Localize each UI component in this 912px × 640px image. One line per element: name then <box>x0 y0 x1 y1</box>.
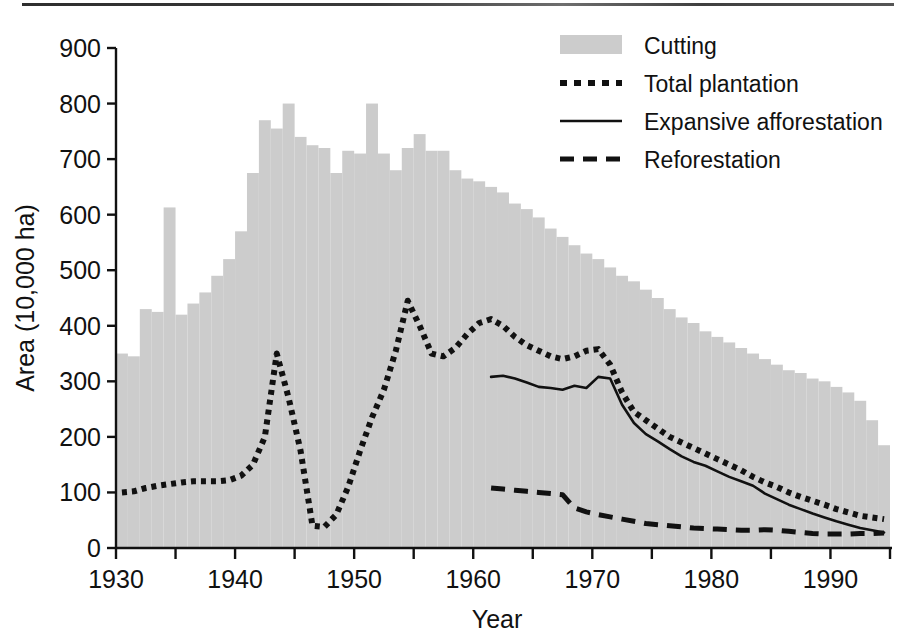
cutting-bar <box>176 315 188 548</box>
cutting-bar <box>259 120 271 548</box>
legend: CuttingTotal plantationExpansive affores… <box>560 33 883 173</box>
cutting-bar <box>414 134 426 548</box>
cutting-bar <box>664 309 676 548</box>
y-tick-label: 200 <box>59 423 101 451</box>
y-axis-title: Area (10,000 ha) <box>11 204 39 392</box>
cutting-bar <box>128 356 140 548</box>
cutting-bar <box>199 292 211 548</box>
cutting-bar <box>366 104 378 548</box>
cutting-bar <box>307 145 319 548</box>
cutting-bar <box>509 204 521 548</box>
cutting-bar <box>295 137 307 548</box>
cutting-bar <box>533 217 545 548</box>
cutting-bar <box>342 151 354 548</box>
x-tick-label: 1950 <box>326 565 382 593</box>
cutting-bar <box>164 207 176 548</box>
cutting-bar <box>235 231 247 548</box>
cutting-bar <box>152 312 164 548</box>
y-tick-label: 800 <box>59 90 101 118</box>
cutting-bar <box>223 259 235 548</box>
cutting-bar <box>699 331 711 548</box>
y-tick-label: 0 <box>87 534 101 562</box>
x-tick-label: 1940 <box>207 565 263 593</box>
y-tick-label: 700 <box>59 145 101 173</box>
cutting-bar <box>378 154 390 548</box>
legend-label-total-plantation: Total plantation <box>644 71 799 97</box>
cutting-bar <box>735 348 747 548</box>
cutting-bar <box>426 151 438 548</box>
cutting-bar <box>402 148 414 548</box>
y-tick-label: 600 <box>59 201 101 229</box>
y-tick-label: 500 <box>59 256 101 284</box>
x-tick-label: 1960 <box>445 565 501 593</box>
cutting-bar <box>473 181 485 548</box>
cutting-bar <box>247 173 259 548</box>
x-tick-label: 1990 <box>803 565 859 593</box>
cutting-bar <box>449 170 461 548</box>
y-tick-label: 400 <box>59 312 101 340</box>
cutting-bar <box>461 179 473 548</box>
cutting-bar <box>438 151 450 548</box>
cutting-bar <box>723 342 735 548</box>
cutting-bar <box>485 187 497 548</box>
legend-label-expansive-afforestation: Expansive afforestation <box>644 109 883 135</box>
y-tick-label: 100 <box>59 478 101 506</box>
x-axis-title: Year <box>472 605 523 633</box>
cutting-bar <box>819 381 831 548</box>
cutting-bar <box>580 254 592 548</box>
cutting-bar <box>354 154 366 548</box>
x-tick-label: 1980 <box>684 565 740 593</box>
x-tick-label: 1930 <box>88 565 144 593</box>
cutting-bar <box>318 148 330 548</box>
cutting-bar <box>521 209 533 548</box>
y-tick-label: 300 <box>59 367 101 395</box>
cutting-bar <box>330 173 342 548</box>
cutting-bar <box>783 370 795 548</box>
cutting-bar <box>795 373 807 548</box>
cutting-bar <box>652 298 664 548</box>
legend-swatch-cutting <box>560 35 622 54</box>
cutting-bar <box>187 304 199 548</box>
cutting-bar <box>592 259 604 548</box>
cutting-bar <box>807 379 819 548</box>
legend-label-cutting: Cutting <box>644 33 717 59</box>
chart-figure: 0100200300400500600700800900193019401950… <box>0 0 912 640</box>
cutting-bar <box>676 317 688 548</box>
cutting-bar <box>771 365 783 548</box>
legend-label-reforestation: Reforestation <box>644 147 781 173</box>
cutting-bar <box>747 354 759 548</box>
cutting-bar <box>283 104 295 548</box>
x-tick-label: 1970 <box>564 565 620 593</box>
cutting-bar <box>116 354 128 548</box>
y-tick-label: 900 <box>59 34 101 62</box>
cutting-bar <box>688 323 700 548</box>
cutting-bar <box>271 129 283 548</box>
cutting-bar <box>711 337 723 548</box>
chart-canvas: 0100200300400500600700800900193019401950… <box>0 0 912 640</box>
cutting-bar <box>211 276 223 548</box>
cutting-bar <box>140 309 152 548</box>
cutting-bar <box>759 359 771 548</box>
cutting-bar <box>497 192 509 548</box>
cutting-bar <box>604 267 616 548</box>
